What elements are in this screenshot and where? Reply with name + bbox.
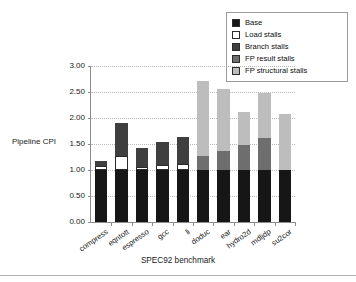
y-axis-tick-label: 1.50 bbox=[69, 140, 85, 148]
y-axis-tick-label: 2.00 bbox=[69, 114, 85, 122]
legend-item-label: Load stalls bbox=[245, 30, 281, 39]
y-axis-title: Pipeline CPI bbox=[12, 137, 56, 146]
bar-segment bbox=[197, 81, 210, 157]
x-axis-tick bbox=[234, 222, 235, 226]
y-axis-tick bbox=[88, 144, 91, 145]
y-axis-tick-label: 1.00 bbox=[69, 166, 85, 174]
y-axis-tick-label: 2.50 bbox=[69, 88, 85, 96]
bar-segment bbox=[95, 170, 108, 222]
x-axis-tick-label: doduc bbox=[190, 228, 212, 246]
x-axis-tick-label: su2cor bbox=[270, 228, 293, 248]
bar-segment bbox=[115, 123, 128, 156]
chart-figure: BaseLoad stallsBranch stallsFP result st… bbox=[0, 0, 356, 282]
x-axis-tick-label: gcc bbox=[157, 228, 171, 241]
legend-item-label: FP result stalls bbox=[245, 54, 295, 63]
bar-segment bbox=[156, 142, 169, 165]
bar-stack bbox=[217, 89, 230, 222]
bar-stack bbox=[197, 81, 210, 222]
bar-segment bbox=[217, 170, 230, 222]
legend-swatch-icon bbox=[232, 43, 240, 51]
bar-stack bbox=[258, 93, 271, 222]
bar-segment bbox=[258, 170, 271, 222]
x-axis-tick-label: compress bbox=[78, 228, 110, 253]
x-axis-tick bbox=[295, 222, 296, 226]
y-axis-tick-label: 3.00 bbox=[69, 62, 85, 70]
x-axis-tick bbox=[275, 222, 276, 226]
y-axis-tick bbox=[88, 66, 91, 67]
y-axis-tick-label: 0.50 bbox=[69, 192, 85, 200]
bar-segment bbox=[279, 170, 292, 222]
legend-item: Branch stalls bbox=[232, 41, 342, 52]
y-axis-tick bbox=[88, 118, 91, 119]
bar-segment bbox=[156, 170, 169, 222]
bar-segment bbox=[258, 93, 271, 139]
x-axis-tick bbox=[254, 222, 255, 226]
legend-item-label: Base bbox=[245, 18, 262, 27]
bar-segment bbox=[115, 170, 128, 222]
legend-item: Load stalls bbox=[232, 29, 342, 40]
bar-segment bbox=[238, 170, 251, 222]
x-axis-tick bbox=[152, 222, 153, 226]
bar-segment bbox=[177, 170, 190, 222]
bar-segment bbox=[177, 137, 190, 164]
bar-segment bbox=[238, 112, 251, 144]
bar-stack bbox=[156, 142, 169, 222]
gridline bbox=[91, 66, 295, 67]
x-axis-title: SPEC92 benchmark bbox=[0, 256, 356, 265]
x-axis-tick bbox=[193, 222, 194, 226]
x-axis-tick bbox=[111, 222, 112, 226]
x-axis-tick bbox=[213, 222, 214, 226]
plot-area: 0.000.501.001.502.002.503.00compresseqnt… bbox=[90, 66, 295, 223]
bar-stack bbox=[95, 161, 108, 222]
y-axis-tick bbox=[88, 170, 91, 171]
y-axis-tick bbox=[88, 196, 91, 197]
bar-stack bbox=[279, 114, 292, 222]
y-axis-tick bbox=[88, 222, 91, 223]
footer-divider bbox=[0, 275, 356, 276]
x-axis-tick bbox=[132, 222, 133, 226]
bar-segment bbox=[238, 145, 251, 170]
bar-segment bbox=[258, 138, 271, 170]
legend-item-label: Branch stalls bbox=[245, 42, 288, 51]
bar-segment bbox=[217, 151, 230, 170]
legend-item: FP result stalls bbox=[232, 53, 342, 64]
legend-item: Base bbox=[232, 17, 342, 28]
bar-stack bbox=[238, 112, 251, 222]
bar-segment bbox=[217, 89, 230, 151]
legend-swatch-icon bbox=[232, 31, 240, 39]
bar-segment bbox=[136, 148, 149, 167]
bar-stack bbox=[115, 123, 128, 222]
bar-stack bbox=[177, 137, 190, 222]
legend-swatch-icon bbox=[232, 55, 240, 63]
y-axis-tick-label: 0.00 bbox=[69, 218, 85, 226]
bar-segment bbox=[279, 114, 292, 170]
x-axis-tick-label: mdljdp bbox=[250, 228, 273, 247]
bar-segment bbox=[136, 170, 149, 222]
bar-segment bbox=[197, 156, 210, 170]
bar-stack bbox=[136, 148, 149, 222]
x-axis-tick-label: li bbox=[184, 228, 191, 236]
bar-segment bbox=[115, 156, 128, 170]
bar-segment bbox=[197, 170, 210, 222]
legend-swatch-icon bbox=[232, 19, 240, 27]
x-axis-tick bbox=[173, 222, 174, 226]
y-axis-tick bbox=[88, 92, 91, 93]
